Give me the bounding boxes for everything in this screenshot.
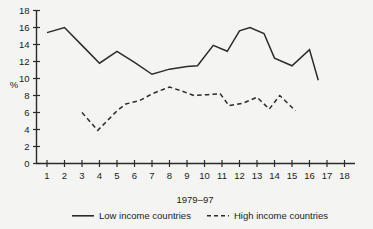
axis-spine [37, 11, 356, 164]
line-chart: 024681012141618 123456789101112131415161… [0, 0, 373, 229]
y-tick-label: 18 [19, 5, 30, 16]
x-tick-label: 16 [304, 170, 315, 181]
x-tick-label: 2 [62, 170, 67, 181]
x-axis-title: 1979–97 [177, 194, 214, 205]
x-tick-label: 15 [287, 170, 298, 181]
x-tick-label: 11 [217, 170, 227, 181]
x-tick-label: 17 [322, 170, 333, 181]
series-line-low-income-countries [47, 28, 318, 81]
x-tick-label: 4 [97, 170, 102, 181]
y-tick-label: 4 [24, 124, 29, 135]
legend-label-0: Low income countries [99, 210, 191, 221]
x-tick-label: 18 [339, 170, 350, 181]
chart-container: 024681012141618 123456789101112131415161… [0, 0, 373, 229]
y-tick-label: 8 [24, 90, 29, 101]
series-layer [47, 28, 318, 131]
x-tick-label: 1 [44, 170, 49, 181]
x-tick-label: 6 [132, 170, 137, 181]
x-tick-label: 14 [269, 170, 280, 181]
x-tick-label: 9 [184, 170, 189, 181]
chart-legend: Low income countriesHigh income countrie… [72, 210, 328, 221]
x-tick-label: 8 [167, 170, 172, 181]
y-tick-label: 16 [19, 22, 30, 33]
y-tick-label: 10 [19, 73, 30, 84]
series-line-high-income-countries [82, 87, 296, 130]
y-tick-label: 6 [24, 107, 29, 118]
legend-label-1: High income countries [234, 210, 328, 221]
x-tick-label: 5 [114, 170, 119, 181]
y-axis: 024681012141618 [19, 5, 355, 169]
x-tick-label: 7 [149, 170, 154, 181]
y-tick-label: 0 [24, 158, 29, 169]
x-tick-label: 13 [252, 170, 263, 181]
x-tick-label: 3 [79, 170, 84, 181]
y-axis-title: % [10, 79, 19, 90]
y-tick-label: 2 [24, 141, 29, 152]
x-tick-label: 10 [199, 170, 210, 181]
x-tick-label: 12 [234, 170, 245, 181]
y-tick-label: 14 [19, 39, 30, 50]
y-tick-label: 12 [19, 56, 30, 67]
